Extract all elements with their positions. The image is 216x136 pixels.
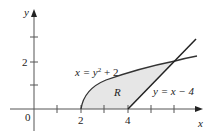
region-diagram: y x 0 2 4 2 x = y2 + 2 R y = x − 4 (0, 0, 216, 136)
y-axis-arrow-icon (31, 9, 37, 17)
x-tick-label-2: 2 (78, 114, 84, 126)
x-tick-label-4: 4 (125, 114, 131, 126)
x-axis-label: x (197, 117, 203, 129)
line-label: y = x − 4 (152, 85, 195, 97)
x-axis-arrow-icon (195, 106, 203, 112)
y-tick-label-2: 2 (22, 56, 28, 68)
y-axis-label: y (23, 6, 29, 18)
region-label: R (113, 86, 121, 98)
origin-label: 0 (25, 111, 31, 123)
parabola-label: x = y2 + 2 (74, 66, 118, 78)
